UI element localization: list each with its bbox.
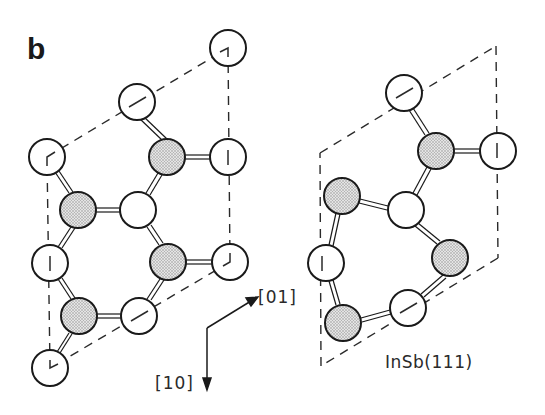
panel-label: b — [27, 34, 45, 64]
atom-open — [480, 133, 516, 169]
atom-open — [120, 192, 156, 228]
atom-shaded — [150, 244, 186, 280]
figure-panel-b: b [01] [10] InSb(111) — [0, 0, 545, 415]
atom-shaded — [61, 298, 97, 334]
atom-shaded — [149, 139, 185, 175]
direction-label-10: [10] — [155, 373, 194, 393]
atom-shaded — [324, 178, 360, 214]
atom-open — [388, 192, 424, 228]
atom-shaded — [325, 305, 361, 341]
atom-shaded — [60, 192, 96, 228]
left-atoms — [29, 30, 248, 386]
arrow-head-01-icon — [246, 297, 258, 306]
direction-arrows — [203, 297, 258, 390]
atom-shaded — [418, 133, 454, 169]
surface-caption: InSb(111) — [385, 352, 473, 372]
direction-label-01: [01] — [258, 287, 297, 307]
atom-open — [308, 245, 344, 281]
atom-shaded — [432, 240, 468, 276]
arrow-head-10-icon — [203, 378, 211, 390]
